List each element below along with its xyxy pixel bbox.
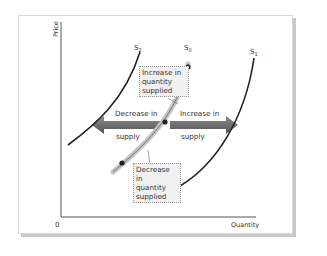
- decrease-qs-line3: supplied: [136, 192, 178, 201]
- increase-qs-line1: Increase in: [142, 68, 186, 77]
- increase-qs-line3: supplied: [142, 86, 186, 95]
- s0-label: S0: [184, 44, 192, 53]
- origin-label: 0: [55, 221, 59, 229]
- s1-label: S1: [250, 48, 258, 57]
- s2-label: S2: [134, 44, 142, 53]
- decrease-qs-box: Decrease in quantity supplied: [133, 163, 181, 203]
- x-axis-label: Quantity: [231, 221, 259, 229]
- decrease-supply-label-top: Decrease in: [115, 109, 158, 118]
- decrease-qs-leader: [148, 150, 150, 164]
- y-axis-label: Price: [52, 21, 60, 37]
- supply-chart: S2 S0 S1 Price 0 Quantity: [0, 0, 327, 256]
- increase-qs-box: Increase in quantity supplied: [139, 66, 189, 97]
- increase-qs-line2: quantity: [142, 77, 186, 86]
- decrease-qs-line2: quantity: [136, 183, 178, 192]
- decrease-supply-label-bottom: supply: [116, 132, 140, 141]
- s0-lower-point: [119, 160, 124, 165]
- decrease-qs-line1: Decrease in: [136, 165, 178, 183]
- s0-middle-point: [162, 119, 167, 124]
- increase-supply-label-top: Increase in: [180, 109, 219, 118]
- increase-supply-label-bottom: supply: [181, 132, 205, 141]
